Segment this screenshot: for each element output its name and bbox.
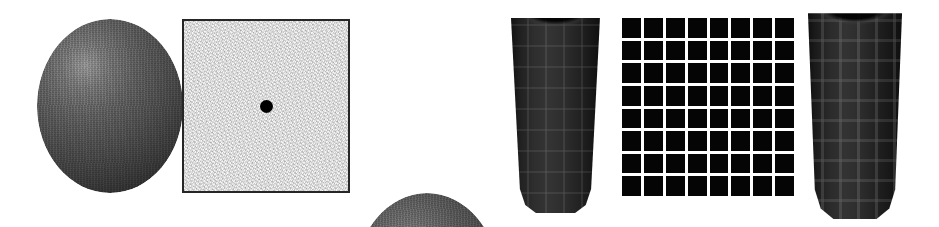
checker-cell <box>731 86 750 106</box>
checker-cell <box>710 86 729 106</box>
checker-cell <box>710 176 729 196</box>
checker-cell <box>710 63 729 83</box>
checker-cell <box>688 63 707 83</box>
checker-cell <box>688 176 707 196</box>
cylinder-top-rim <box>511 12 600 29</box>
checker-cell <box>644 109 663 129</box>
checker-cell <box>775 41 794 61</box>
checker-cell <box>622 176 641 196</box>
noise-square-panel <box>182 19 350 193</box>
checker-cell <box>731 18 750 38</box>
checker-cell <box>666 86 685 106</box>
checker-cell <box>775 18 794 38</box>
checker-cell <box>753 176 772 196</box>
checker-cell <box>688 41 707 61</box>
checker-cell <box>753 109 772 129</box>
checker-cell <box>775 63 794 83</box>
checker-cell <box>775 176 794 196</box>
checker-cell <box>731 131 750 151</box>
checker-cell <box>644 41 663 61</box>
checker-cell <box>753 41 772 61</box>
checker-cell <box>753 131 772 151</box>
checker-cell <box>731 109 750 129</box>
checker-cell <box>644 86 663 106</box>
textured-sphere-right <box>355 193 499 227</box>
checker-cell <box>622 18 641 38</box>
checker-cell <box>775 86 794 106</box>
cylinder-checker-texture <box>511 12 600 213</box>
checker-cell <box>731 41 750 61</box>
checker-cell <box>688 18 707 38</box>
checker-cell <box>688 86 707 106</box>
checker-cell <box>688 109 707 129</box>
checker-cell <box>731 63 750 83</box>
checker-cell <box>622 63 641 83</box>
checker-cell <box>666 109 685 129</box>
checker-cell <box>710 109 729 129</box>
checker-cell <box>710 154 729 174</box>
cylinder-top-rim <box>806 9 904 26</box>
checker-cell <box>622 41 641 61</box>
checker-cell <box>644 18 663 38</box>
checker-cell <box>666 131 685 151</box>
checker-cell <box>731 154 750 174</box>
checker-cell <box>622 154 641 174</box>
checker-cell <box>622 86 641 106</box>
checker-cell <box>666 41 685 61</box>
checker-cell <box>775 154 794 174</box>
checker-cell <box>622 131 641 151</box>
checker-cell <box>731 176 750 196</box>
textured-cylinder-left <box>511 12 600 213</box>
checker-cell <box>666 176 685 196</box>
checker-cell <box>666 18 685 38</box>
checker-cell <box>753 154 772 174</box>
checker-cell <box>688 131 707 151</box>
checker-cell <box>775 131 794 151</box>
checker-cell <box>775 109 794 129</box>
checker-cell <box>644 154 663 174</box>
checker-cell <box>666 154 685 174</box>
sphere-grain-overlay-secondary <box>355 193 499 227</box>
textured-sphere-left <box>37 19 183 193</box>
checker-cell <box>644 176 663 196</box>
checker-cell <box>710 18 729 38</box>
figure-strip <box>0 0 939 227</box>
checker-cell <box>622 109 641 129</box>
checker-cell <box>753 63 772 83</box>
checker-cell <box>688 154 707 174</box>
checker-cell <box>753 18 772 38</box>
fixation-dot <box>260 100 273 113</box>
checker-cell <box>666 63 685 83</box>
checker-cell <box>644 63 663 83</box>
sphere-grain-overlay-secondary <box>37 19 183 193</box>
checker-cell <box>710 131 729 151</box>
cylinder-checker-texture <box>806 9 904 219</box>
checker-cell <box>710 41 729 61</box>
textured-cylinder-right <box>806 9 904 219</box>
checkerboard-grid <box>622 18 794 196</box>
checker-cell <box>753 86 772 106</box>
checker-cell <box>644 131 663 151</box>
